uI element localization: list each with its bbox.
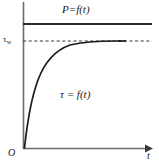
- x-axis-label: t: [147, 151, 150, 161]
- tau-subscript-w: w: [7, 38, 12, 45]
- chart-figure: P=f(t) τ = f(t) τw O t: [0, 0, 159, 167]
- origin-label: O: [8, 148, 15, 158]
- annotation-p-curve: P=f(t): [62, 4, 90, 15]
- plot-canvas: [0, 0, 159, 167]
- y-tick-label-tau-w: τw: [3, 35, 11, 46]
- annotation-tau-curve: τ = f(t): [60, 89, 90, 100]
